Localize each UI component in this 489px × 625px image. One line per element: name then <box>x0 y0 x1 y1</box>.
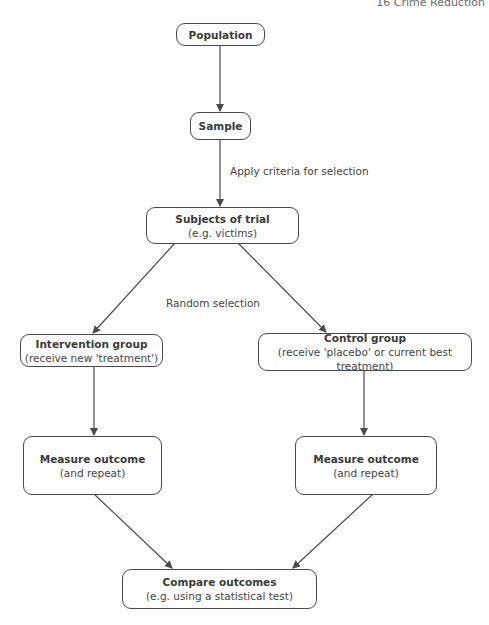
node-measure-outcome-right: Measure outcome (and repeat) <box>295 436 437 495</box>
node-title: Compare outcomes <box>163 575 277 589</box>
node-title: Measure outcome <box>313 452 419 466</box>
node-title: Control group <box>324 331 406 345</box>
node-subtitle: (and repeat) <box>333 466 399 480</box>
edge-label-criteria: Apply criteria for selection <box>230 165 369 177</box>
node-title: Subjects of trial <box>175 212 269 226</box>
edge-label-random: Random selection <box>166 297 260 309</box>
arrow-subjects-intervention <box>93 243 175 333</box>
arrow-measure-right-compare <box>293 494 373 568</box>
node-control-group: Control group (receive 'placebo' or curr… <box>258 333 472 371</box>
node-intervention-group: Intervention group (receive new 'treatme… <box>20 334 163 367</box>
node-subtitle: (e.g. using a statistical test) <box>146 589 293 603</box>
node-title: Population <box>189 28 253 42</box>
node-subtitle: (receive new 'treatment') <box>25 351 158 365</box>
node-subtitle: (and repeat) <box>60 466 126 480</box>
node-compare-outcomes: Compare outcomes (e.g. using a statistic… <box>122 569 317 609</box>
node-subjects-of-trial: Subjects of trial (e.g. victims) <box>146 207 299 244</box>
node-measure-outcome-left: Measure outcome (and repeat) <box>23 436 162 495</box>
node-population: Population <box>176 23 265 46</box>
arrow-measure-left-compare <box>94 494 172 568</box>
node-sample: Sample <box>190 112 251 140</box>
node-title: Intervention group <box>35 337 147 351</box>
node-title: Sample <box>199 119 243 133</box>
node-subtitle: (receive 'placebo' or current best treat… <box>259 345 471 373</box>
arrow-subjects-control <box>238 243 326 332</box>
node-subtitle: (e.g. victims) <box>188 226 257 240</box>
flow-connectors <box>0 0 489 625</box>
node-title: Measure outcome <box>40 452 146 466</box>
